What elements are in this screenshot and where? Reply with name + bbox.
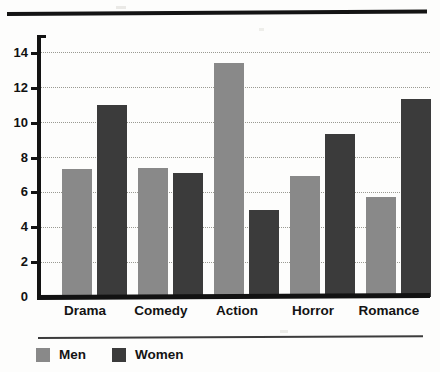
y-tick-12	[31, 87, 39, 90]
bar-comedy-men[interactable]	[138, 168, 168, 298]
scan-speck	[116, 6, 126, 9]
legend-label-women: Women	[135, 348, 184, 362]
legend-swatch-men-icon	[36, 348, 50, 362]
bar-romance-men[interactable]	[366, 197, 396, 297]
y-tick-label-2: 2	[0, 255, 28, 268]
x-axis	[37, 293, 430, 300]
legend-item-men[interactable]: Men	[36, 348, 86, 362]
legend-divider	[38, 335, 423, 339]
scan-speck	[259, 28, 264, 31]
y-tick-label-14: 14	[0, 46, 28, 59]
y-tick-label-10: 10	[0, 116, 28, 129]
bar-comedy-women[interactable]	[173, 173, 203, 297]
scan-speck	[280, 330, 288, 333]
legend: Men Women	[36, 348, 184, 362]
bar-chart: 14 12 10 8 6 4 2 0 Drama Comedy Action H…	[0, 0, 440, 372]
y-tick-label-6: 6	[0, 185, 28, 198]
y-tick-8	[31, 157, 39, 160]
x-label-romance: Romance	[339, 303, 439, 318]
y-tick-4	[31, 226, 39, 229]
bar-action-women[interactable]	[249, 210, 279, 298]
plot-area	[40, 38, 430, 297]
y-axis	[37, 36, 41, 299]
bar-horror-women[interactable]	[325, 134, 355, 297]
y-tick-label-12: 12	[0, 81, 28, 94]
bar-drama-women[interactable]	[97, 105, 127, 298]
gridline-14	[40, 52, 430, 53]
legend-item-women[interactable]: Women	[112, 348, 184, 362]
bar-drama-men[interactable]	[62, 169, 92, 297]
y-tick-6	[31, 191, 39, 194]
legend-swatch-women-icon	[112, 348, 126, 362]
bar-horror-men[interactable]	[290, 176, 320, 297]
y-tick-2	[31, 261, 39, 264]
y-tick-label-0: 0	[0, 290, 28, 303]
y-tick-10	[31, 122, 39, 125]
y-tick-14	[31, 52, 39, 55]
legend-label-men: Men	[59, 348, 86, 362]
bar-action-men[interactable]	[214, 63, 244, 298]
y-tick-label-4: 4	[0, 220, 28, 233]
y-tick-label-8: 8	[0, 151, 28, 164]
bar-romance-women[interactable]	[401, 99, 431, 297]
